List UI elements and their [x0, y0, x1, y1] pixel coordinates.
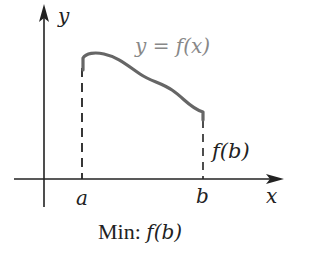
function-curve [83, 53, 203, 120]
tick-label-a: a [76, 186, 88, 210]
caption-value: f(b) [146, 220, 182, 244]
y-axis-label: y [58, 4, 69, 28]
caption: Min: f(b) [98, 219, 182, 245]
curve-label: y = f(x) [135, 34, 210, 58]
tick-label-b: b [196, 184, 209, 208]
caption-prefix: Min: [98, 219, 146, 244]
value-label-fb: f(b) [212, 139, 250, 163]
x-axis-label: x [266, 184, 277, 208]
